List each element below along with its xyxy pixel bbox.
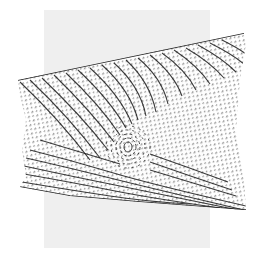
- fingerprint-ridges: [0, 0, 260, 258]
- fingerprint-image: [0, 0, 260, 258]
